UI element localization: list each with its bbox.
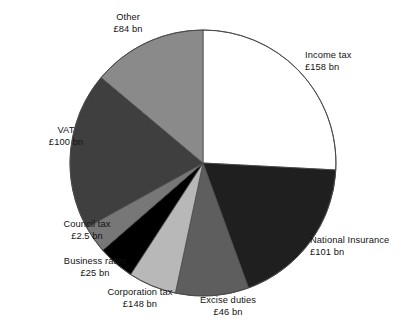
pie-label-excise-duties-value: £46 bn bbox=[200, 307, 256, 319]
pie-label-national-insurance: National Insurance £101 bn bbox=[310, 235, 389, 258]
pie-label-council-tax-name: Council tax bbox=[63, 219, 110, 231]
pie-label-vat-value: £100 bn bbox=[49, 137, 83, 149]
pie-label-vat-name: VAT bbox=[49, 125, 83, 137]
pie-chart-canvas bbox=[0, 0, 420, 333]
pie-label-corporation-tax-value: £148 bn bbox=[108, 299, 173, 311]
pie-label-income-tax: Income tax £158 bn bbox=[305, 50, 351, 73]
pie-label-excise-duties-name: Excise duties bbox=[200, 295, 256, 307]
pie-label-other-value: £84 bn bbox=[114, 24, 143, 36]
pie-label-excise-duties: Excise duties £46 bn bbox=[200, 295, 256, 318]
pie-label-council-tax: Council tax £2.5 bn bbox=[63, 219, 110, 242]
pie-label-national-insurance-name: National Insurance bbox=[310, 235, 389, 247]
pie-label-national-insurance-value: £101 bn bbox=[310, 247, 389, 259]
pie-label-income-tax-value: £158 bn bbox=[305, 62, 351, 74]
pie-label-business-rates-name: Business rates bbox=[64, 256, 126, 268]
pie-label-business-rates: Business rates £25 bn bbox=[64, 256, 126, 279]
pie-label-council-tax-value: £2.5 bn bbox=[63, 231, 110, 243]
pie-label-income-tax-name: Income tax bbox=[305, 50, 351, 62]
pie-chart: Income tax £158 bn National Insurance £1… bbox=[0, 0, 420, 333]
pie-label-corporation-tax: Corporation tax £148 bn bbox=[108, 287, 173, 310]
pie-label-business-rates-value: £25 bn bbox=[64, 268, 126, 280]
pie-label-other-name: Other bbox=[114, 12, 143, 24]
pie-label-corporation-tax-name: Corporation tax bbox=[108, 287, 173, 299]
pie-label-other: Other £84 bn bbox=[114, 12, 143, 35]
pie-label-vat: VAT £100 bn bbox=[49, 125, 83, 148]
